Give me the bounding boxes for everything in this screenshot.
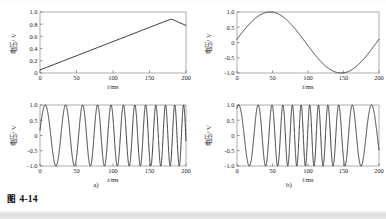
svg-text:-1.0: -1.0 [224, 69, 234, 76]
svg-text:100: 100 [108, 74, 118, 81]
y-axis-label-cjk: 电压 [10, 134, 18, 146]
figure-4-14: 电压/ V 05010015020000.20.40.60.81.0t/ms 电… [0, 0, 386, 219]
svg-text:1.0: 1.0 [226, 101, 234, 108]
svg-text:0: 0 [38, 167, 41, 174]
svg-text:-0.5: -0.5 [224, 147, 234, 154]
svg-text:150: 150 [145, 167, 155, 174]
svg-text:50: 50 [269, 167, 275, 174]
plot-a-bottom: 050100150200-1.0-0.500.51.0t/ms [0, 99, 193, 191]
svg-text:0: 0 [34, 69, 37, 76]
y-axis-label-b-top: 电压/ V [206, 20, 213, 66]
svg-text:0: 0 [231, 132, 234, 139]
caption-number: 4-14 [19, 193, 37, 204]
subfigure-label-b: b) [269, 181, 309, 189]
y-axis-label-unit: / V [10, 33, 17, 42]
caption-prefix: 图 [7, 194, 16, 204]
plot-b-bottom: 050100150200-1.0-0.500.51.0t/ms [193, 99, 386, 191]
svg-text:0.5: 0.5 [226, 117, 234, 124]
svg-text:0: 0 [235, 74, 238, 81]
svg-text:150: 150 [339, 74, 349, 81]
svg-text:0.8: 0.8 [29, 21, 37, 28]
svg-text:1.0: 1.0 [226, 8, 234, 15]
svg-text:0.5: 0.5 [226, 24, 234, 31]
y-axis-label-unit: / V [205, 125, 212, 134]
subfigure-label-a: a) [76, 181, 116, 189]
chart-panel-b-bottom: 电压/ V 050100150200-1.0-0.500.51.0t/ms [193, 99, 386, 191]
svg-text:150: 150 [339, 167, 349, 174]
chart-panel-a-top: 电压/ V 05010015020000.20.40.60.81.0t/ms [0, 2, 193, 97]
svg-text:100: 100 [108, 167, 118, 174]
svg-text:1.0: 1.0 [29, 8, 37, 15]
svg-text:0: 0 [38, 74, 41, 81]
svg-text:0.2: 0.2 [29, 57, 37, 64]
svg-text:t/ms: t/ms [107, 83, 119, 90]
svg-text:200: 200 [374, 167, 384, 174]
y-axis-label-cjk: 电压 [205, 134, 213, 146]
y-axis-label-a-bottom: 电压/ V [11, 112, 18, 158]
chart-panel-a-bottom: 电压/ V 050100150200-1.0-0.500.51.0t/ms [0, 99, 193, 191]
svg-text:t/ms: t/ms [302, 83, 314, 90]
svg-text:0: 0 [235, 167, 238, 174]
y-axis-label-cjk: 电压 [205, 42, 213, 54]
svg-text:50: 50 [73, 74, 79, 81]
svg-text:0.4: 0.4 [29, 45, 38, 52]
svg-text:0: 0 [34, 132, 37, 139]
svg-text:0.6: 0.6 [29, 33, 37, 40]
svg-text:0: 0 [231, 39, 234, 46]
svg-text:200: 200 [181, 167, 191, 174]
y-axis-label-unit: / V [205, 33, 212, 42]
chart-panel-b-top: 电压/ V 050100150200-1.0-0.500.51.0t/ms [193, 2, 386, 97]
svg-text:50: 50 [269, 74, 275, 81]
y-axis-label-b-bottom: 电压/ V [206, 112, 213, 158]
svg-text:-0.5: -0.5 [27, 147, 37, 154]
svg-text:50: 50 [73, 167, 79, 174]
svg-text:0.5: 0.5 [29, 117, 37, 124]
figure-caption: 图 4-14 [7, 192, 38, 204]
plot-b-top: 050100150200-1.0-0.500.51.0t/ms [193, 2, 386, 97]
svg-text:-1.0: -1.0 [224, 162, 234, 169]
svg-text:-1.0: -1.0 [27, 162, 37, 169]
svg-text:200: 200 [181, 74, 191, 81]
page-edge-shadow [0, 211, 386, 219]
y-axis-label-unit: / V [10, 125, 17, 134]
svg-text:150: 150 [145, 74, 155, 81]
svg-text:100: 100 [303, 167, 313, 174]
svg-text:200: 200 [374, 74, 384, 81]
y-axis-label-a-top: 电压/ V [11, 20, 18, 66]
svg-text:-0.5: -0.5 [224, 54, 234, 61]
plot-a-top: 05010015020000.20.40.60.81.0t/ms [0, 2, 193, 97]
y-axis-label-cjk: 电压 [10, 42, 18, 54]
svg-text:100: 100 [303, 74, 313, 81]
svg-text:1.0: 1.0 [29, 101, 37, 108]
